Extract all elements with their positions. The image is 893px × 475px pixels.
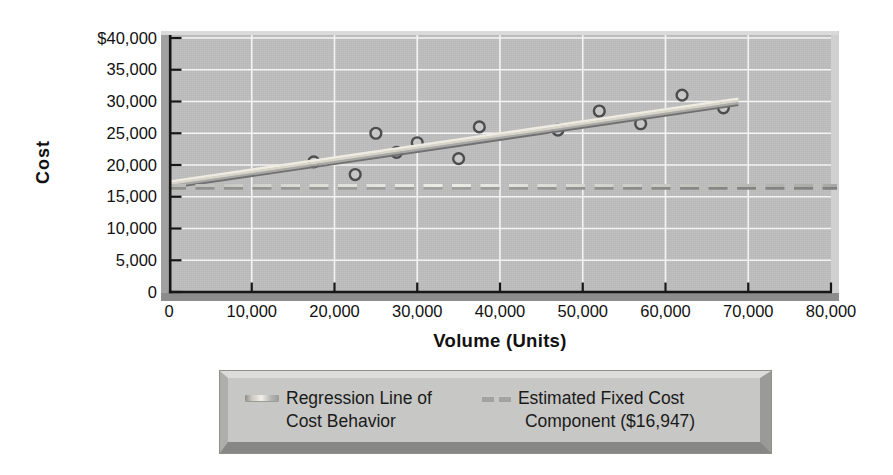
chart-canvas: 05,00010,00015,00020,00025,00030,00035,0… [0,0,893,330]
plot-bevel-top [161,31,838,35]
legend-fixed-line1: Estimated Fixed Cost [518,387,695,410]
regression-line-swatch-icon [245,395,279,401]
data-point [453,153,464,164]
plot-bevel-left [161,31,169,294]
y-tick-label: 20,000 [107,156,157,174]
x-tick-label: 30,000 [392,302,442,320]
data-point [370,128,381,139]
plot-bevel-bottom [161,293,839,301]
x-tick-label: 0 [164,302,173,320]
data-point [350,169,361,180]
legend-fixed-line2: Component ($16,947) [518,410,695,433]
x-tick-label: 10,000 [227,302,277,320]
x-tick-label: 70,000 [723,302,773,320]
legend-item-regression-line: Regression Line of Cost Behavior [245,387,432,433]
scattergraph-figure: Cost 05,00010,00015,00020,00025,00030,00… [0,0,893,475]
y-tick-label: 5,000 [116,251,157,269]
x-tick-label: 40,000 [475,302,525,320]
x-tick-label: 60,000 [640,302,690,320]
plot-bevel-right [831,31,839,294]
y-tick-label: 25,000 [107,124,157,142]
y-tick-label: 35,000 [107,60,157,78]
y-tick-label: 30,000 [107,92,157,110]
chart-legend: Regression Line of Cost Behavior Estimat… [220,371,771,453]
x-tick-label: 80,000 [806,302,856,320]
x-axis-title: Volume (Units) [169,330,831,352]
legend-item-fixed-cost: Estimated Fixed Cost Component ($16,947) [482,387,695,433]
legend-label-regression: Regression Line of Cost Behavior [286,387,432,433]
y-tick-label: 0 [148,283,157,301]
legend-regression-line1: Regression Line of [286,387,432,410]
legend-label-fixed-cost: Estimated Fixed Cost Component ($16,947) [518,387,695,433]
data-point [677,90,688,101]
y-tick-label: $40,000 [97,29,157,47]
data-point [594,106,605,117]
x-tick-label: 20,000 [309,302,359,320]
y-tick-label: 10,000 [107,219,157,237]
x-tick-label: 50,000 [558,302,608,320]
dashed-line-swatch-icon [482,395,511,401]
data-point [474,122,485,133]
y-tick-label: 15,000 [107,187,157,205]
legend-regression-line2: Cost Behavior [286,410,432,433]
